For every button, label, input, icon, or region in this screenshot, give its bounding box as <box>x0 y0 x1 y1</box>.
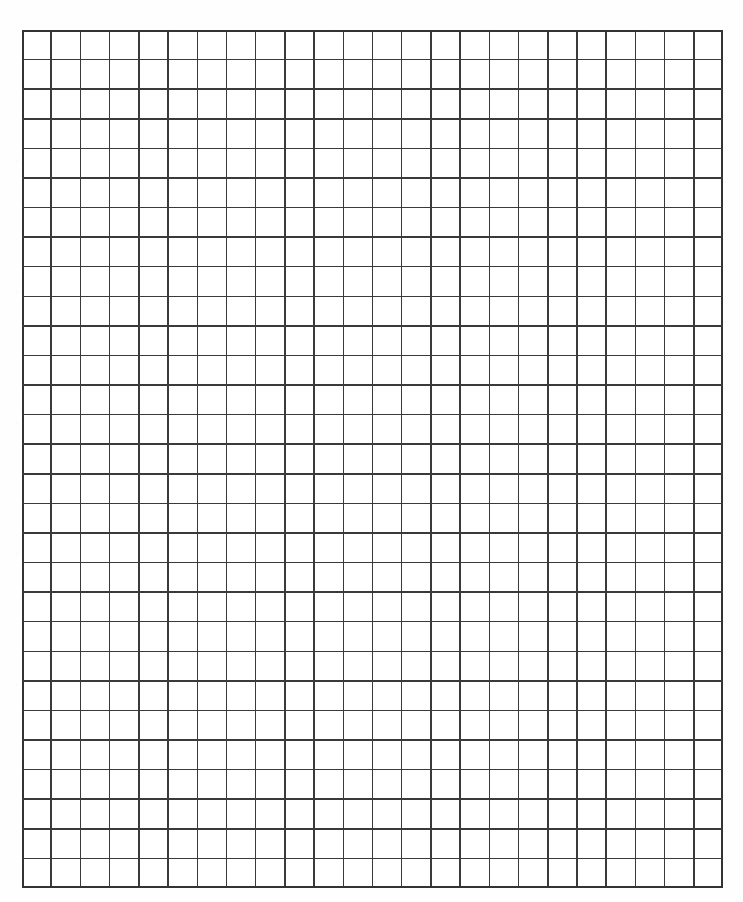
grid-lines-svg <box>22 30 723 888</box>
paper-sheet <box>0 0 743 902</box>
graph-paper-grid[interactable] <box>22 30 723 888</box>
